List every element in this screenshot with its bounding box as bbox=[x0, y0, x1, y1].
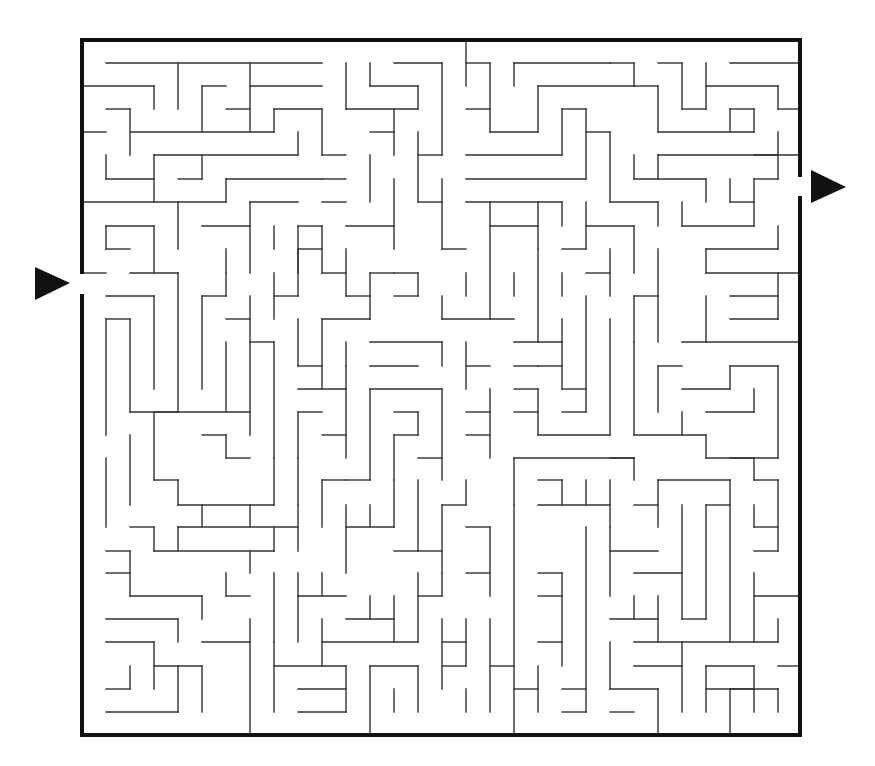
background bbox=[0, 0, 875, 766]
maze-entrance[interactable] bbox=[76, 272, 88, 296]
maze-canvas[interactable] bbox=[0, 0, 875, 766]
maze-exit[interactable] bbox=[794, 175, 806, 198]
